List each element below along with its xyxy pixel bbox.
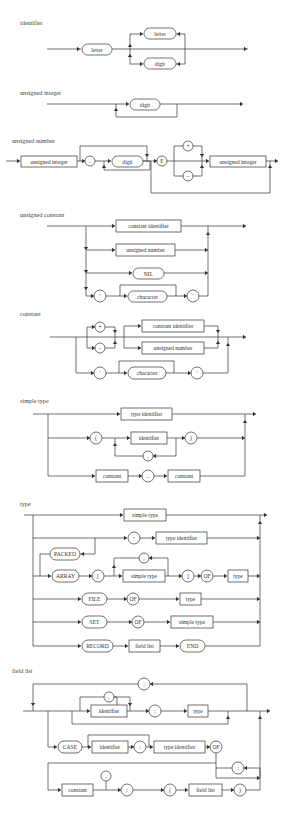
arrow-head-icon	[177, 32, 180, 36]
nonterminal-box: constant	[168, 470, 200, 482]
nonterminal-box: type	[180, 593, 201, 605]
arrow-head-icon	[150, 682, 153, 686]
node-label: CASE	[63, 744, 78, 750]
terminal-symbol: ;	[232, 762, 244, 774]
arrow-head-icon	[54, 745, 57, 749]
terminal-symbol: ;	[138, 678, 150, 690]
connector-line	[86, 226, 94, 296]
arrow-head-icon	[129, 271, 132, 275]
node-label: identifier	[99, 708, 120, 714]
nonterminal-box: type	[228, 570, 248, 582]
connector-line	[105, 327, 115, 337]
arrow-head-icon	[205, 271, 208, 275]
node-label: (	[169, 787, 171, 794]
arrow-head-icon	[207, 745, 210, 749]
connector-line	[80, 538, 95, 554]
node-label: simple type	[179, 619, 205, 625]
arrow-head-icon	[87, 436, 90, 440]
syntax-diagram-field-list: field list;,identifier:typeCASEidentifie…	[12, 667, 270, 796]
connector-line	[76, 337, 94, 373]
arrow-head-icon	[112, 248, 115, 252]
arrow-head-icon	[244, 766, 247, 770]
terminal-symbol: +	[183, 141, 193, 151]
terminal-symbol: '	[94, 290, 106, 302]
nonterminal-box: identifier	[91, 705, 127, 717]
arrow-head-icon	[226, 343, 230, 346]
arrow-head-icon	[139, 474, 142, 478]
terminal-symbol: ]	[182, 570, 194, 582]
node-label: identifier	[100, 744, 121, 750]
nonterminal-box: unsigned integer	[21, 156, 77, 167]
node-label: type identifier	[164, 744, 196, 750]
terminal-symbol: ,	[101, 771, 111, 781]
arrow-head-icon	[128, 54, 132, 57]
arrow-head-icon	[267, 709, 270, 713]
arrow-head-icon	[244, 47, 247, 51]
node-label: '	[99, 293, 100, 299]
arrow-head-icon	[184, 294, 187, 298]
node-label: SET	[90, 619, 101, 625]
node-label: unsigned integer	[30, 159, 67, 165]
arrow-head-icon	[243, 224, 246, 228]
node-label: FILE	[89, 596, 101, 602]
nonterminal-box: type identifier	[121, 408, 172, 420]
node-label: ↑	[133, 535, 136, 541]
arrow-head-icon	[102, 165, 106, 168]
arrow-head-icon	[176, 644, 179, 648]
terminal-symbol: [	[92, 570, 104, 582]
arrow-head-icon	[182, 436, 185, 440]
terminal-symbol: +	[95, 322, 105, 332]
nonterminal-box: simple type	[171, 616, 213, 628]
arrow-head-icon	[253, 412, 256, 416]
node-label: type	[186, 596, 196, 602]
arrow-head-icon	[258, 521, 262, 524]
terminal-symbol: '	[191, 367, 203, 379]
arrow-head-icon	[128, 703, 132, 706]
nonterminal-box: constant identifier	[142, 320, 204, 332]
arrow-head-icon	[264, 513, 267, 517]
arrow-head-icon	[118, 788, 121, 792]
arrow-head-icon	[113, 341, 117, 344]
connector-line	[87, 327, 95, 337]
arrow-head-icon	[87, 709, 90, 713]
node-label: character	[137, 370, 158, 376]
arrow-head-icon	[124, 597, 127, 601]
terminal-symbol: '	[187, 290, 199, 302]
arrow-head-icon	[205, 248, 208, 252]
nonterminal-box: unsigned number	[116, 244, 175, 256]
connector-line	[193, 161, 202, 176]
terminal-symbol: END	[180, 640, 205, 652]
arrow-head-icon	[77, 47, 80, 51]
nonterminal-box: identifier	[131, 432, 167, 444]
terminal-symbol: letter	[82, 44, 112, 55]
node-label: identifier	[139, 435, 160, 441]
terminal-symbol: –	[95, 343, 105, 353]
terminal-symbol: E	[157, 156, 167, 166]
arrow-head-icon	[200, 154, 204, 157]
node-label: digit	[122, 159, 133, 165]
node-label: ARRAY	[56, 573, 75, 579]
terminal-symbol: (	[90, 432, 102, 444]
terminal-symbol: OF	[132, 616, 144, 628]
syntax-diagram-unsigned-integer: unsigned integerdigit	[20, 89, 243, 117]
nonterminal-box: constant identifier	[116, 220, 181, 232]
connector-line	[199, 226, 208, 296]
connector-line	[48, 711, 57, 747]
nonterminal-box: constant	[96, 470, 128, 482]
connector-line	[176, 34, 185, 49]
arrow-head-icon	[177, 62, 180, 66]
arrow-head-icon	[268, 165, 272, 168]
arrow-head-icon	[84, 287, 88, 290]
arrow-head-icon	[206, 232, 210, 235]
node-label: constant	[175, 473, 194, 479]
arrow-head-icon	[58, 788, 61, 792]
arrow-head-icon	[124, 371, 127, 375]
terminal-symbol: RECORD	[82, 640, 113, 652]
arrow-head-icon	[138, 346, 141, 350]
diagram-title: identifier	[20, 19, 43, 26]
node-label: (	[95, 435, 97, 442]
arrow-head-icon	[224, 574, 227, 578]
arrow-head-icon	[114, 108, 118, 111]
node-label: )	[239, 787, 241, 794]
arrow-head-icon	[200, 165, 204, 168]
